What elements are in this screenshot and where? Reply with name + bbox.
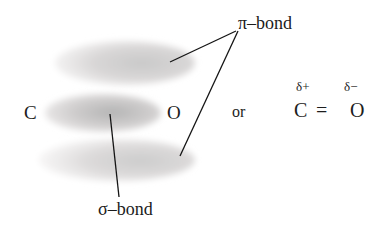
sigma-orbital-middle-lobe	[45, 94, 161, 132]
delta-minus-label: δ−	[344, 80, 357, 93]
or-connector-text: or	[232, 104, 245, 120]
lewis-structure: δ+ δ− C = O	[288, 80, 384, 136]
lewis-atom-oxygen: O	[350, 100, 364, 120]
pi-orbital-top-lobe	[55, 41, 195, 85]
pi-bond-label: π–bond	[238, 14, 292, 32]
double-bond-glyph: =	[316, 100, 327, 120]
atom-label-carbon: C	[24, 103, 37, 122]
sigma-bond-label: σ–bond	[98, 200, 153, 218]
diagram-canvas: C O π–bond σ–bond or δ+ δ− C = O	[0, 0, 389, 234]
delta-plus-label: δ+	[296, 80, 309, 93]
lewis-atom-carbon: C	[294, 100, 307, 120]
atom-label-oxygen: O	[167, 103, 181, 122]
pi-leader-line-bottom	[180, 31, 238, 156]
